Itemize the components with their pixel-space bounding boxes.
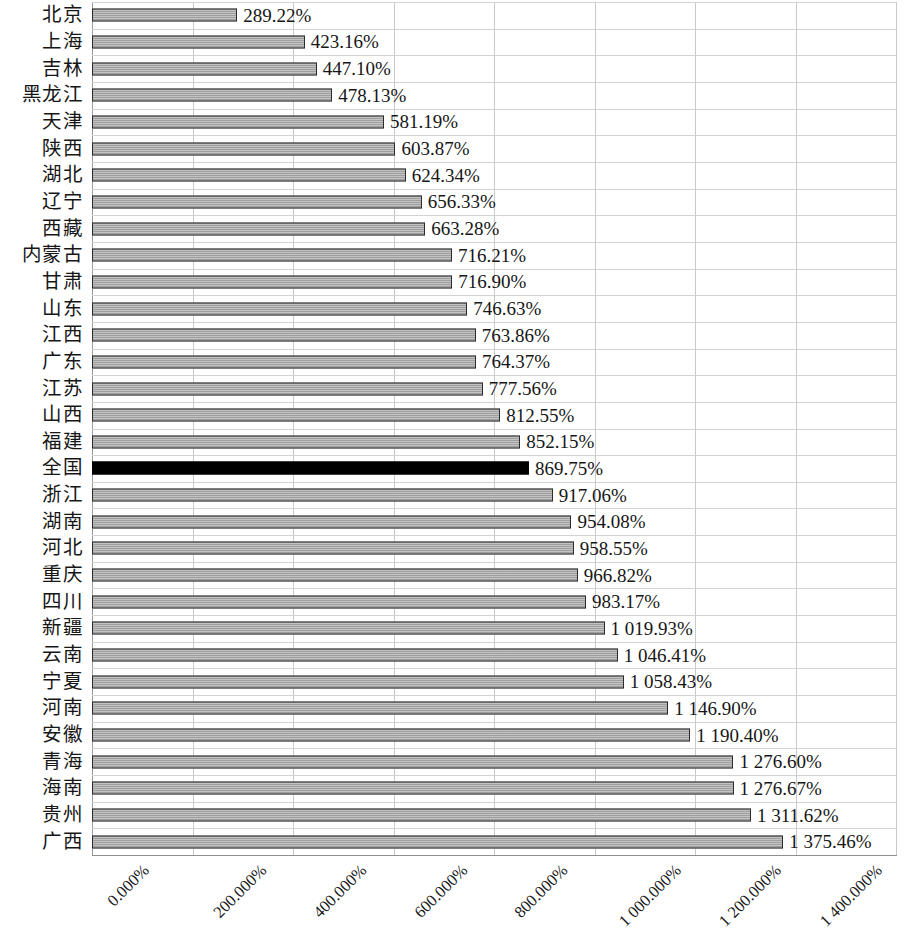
category-label-内蒙古: 内蒙古 xyxy=(22,245,84,265)
bar-陕西: 603.87% xyxy=(92,142,395,155)
category-label-河南: 河南 xyxy=(42,699,83,719)
value-label-湖北: 624.34% xyxy=(412,166,480,185)
bar-row: 河北958.55% xyxy=(92,535,896,562)
bar-row: 青海1 276.60% xyxy=(92,748,896,775)
bar-row: 贵州1 311.62% xyxy=(92,802,896,829)
category-label-重庆: 重庆 xyxy=(42,565,83,585)
bar-湖南: 954.08% xyxy=(92,515,571,528)
value-label-山东: 746.63% xyxy=(473,299,541,318)
category-label-新疆: 新疆 xyxy=(42,619,83,639)
bar-row: 陕西603.87% xyxy=(92,135,896,162)
bar-row: 山西812.55% xyxy=(92,402,896,429)
category-label-辽宁: 辽宁 xyxy=(42,192,83,212)
gridline-x-1600 xyxy=(896,2,897,855)
bar-云南: 1 046.41% xyxy=(92,649,618,662)
bar-row: 内蒙古716.21% xyxy=(92,242,896,269)
x-tick-text: 400.000% xyxy=(311,862,370,921)
bar-甘肃: 716.90% xyxy=(92,275,452,288)
value-label-内蒙古: 716.21% xyxy=(458,246,526,265)
category-label-吉林: 吉林 xyxy=(42,59,83,79)
value-label-辽宁: 656.33% xyxy=(428,192,496,211)
bar-江西: 763.86% xyxy=(92,329,476,342)
bar-江苏: 777.56% xyxy=(92,382,483,395)
value-label-河北: 958.55% xyxy=(580,539,648,558)
bar-row: 广东764.37% xyxy=(92,349,896,376)
category-label-全国: 全国 xyxy=(42,459,83,479)
bar-河南: 1 146.90% xyxy=(92,702,668,715)
bar-安徽: 1 190.40% xyxy=(92,729,690,742)
bar-row: 江西763.86% xyxy=(92,322,896,349)
value-label-广东: 764.37% xyxy=(482,352,550,371)
bar-row: 江苏777.56% xyxy=(92,375,896,402)
bar-湖北: 624.34% xyxy=(92,169,406,182)
x-tick-1000: 1 000.000% xyxy=(616,862,684,930)
bar-row: 黑龙江478.13% xyxy=(92,82,896,109)
value-label-贵州: 1 311.62% xyxy=(757,806,839,825)
bar-辽宁: 656.33% xyxy=(92,195,422,208)
x-tick-text: 1 200.000% xyxy=(716,862,784,930)
category-label-青海: 青海 xyxy=(42,752,83,772)
category-label-广东: 广东 xyxy=(42,352,83,372)
value-label-江西: 763.86% xyxy=(482,326,550,345)
bar-row: 天津581.19% xyxy=(92,109,896,136)
bar-贵州: 1 311.62% xyxy=(92,809,751,822)
x-tick-text: 600.000% xyxy=(411,862,470,921)
bar-青海: 1 276.60% xyxy=(92,755,733,768)
value-label-福建: 852.15% xyxy=(526,432,594,451)
bar-西藏: 663.28% xyxy=(92,222,425,235)
bar-row: 宁夏1 058.43% xyxy=(92,668,896,695)
bar-全国: 869.75% xyxy=(92,462,529,475)
category-label-上海: 上海 xyxy=(42,32,83,52)
category-label-西藏: 西藏 xyxy=(42,219,83,239)
value-label-湖南: 954.08% xyxy=(577,512,645,531)
bar-row: 安徽1 190.40% xyxy=(92,722,896,749)
value-label-新疆: 1 019.93% xyxy=(611,619,693,638)
bar-福建: 852.15% xyxy=(92,435,520,448)
x-tick-text: 1 000.000% xyxy=(616,862,684,930)
category-label-海南: 海南 xyxy=(42,779,83,799)
category-label-江苏: 江苏 xyxy=(42,379,83,399)
category-label-江西: 江西 xyxy=(42,325,83,345)
value-label-上海: 423.16% xyxy=(311,32,379,51)
category-label-天津: 天津 xyxy=(42,112,83,132)
bar-row: 新疆1 019.93% xyxy=(92,615,896,642)
bar-row: 海南1 276.67% xyxy=(92,775,896,802)
category-label-云南: 云南 xyxy=(42,645,83,665)
bar-row: 西藏663.28% xyxy=(92,215,896,242)
value-label-黑龙江: 478.13% xyxy=(338,86,406,105)
value-label-宁夏: 1 058.43% xyxy=(630,672,712,691)
value-label-江苏: 777.56% xyxy=(489,379,557,398)
bar-row: 福建852.15% xyxy=(92,429,896,456)
bar-山西: 812.55% xyxy=(92,409,500,422)
bar-row: 湖南954.08% xyxy=(92,508,896,535)
value-label-四川: 983.17% xyxy=(592,592,660,611)
category-label-四川: 四川 xyxy=(42,592,83,612)
category-label-甘肃: 甘肃 xyxy=(42,272,83,292)
bar-row: 上海423.16% xyxy=(92,29,896,56)
bar-宁夏: 1 058.43% xyxy=(92,675,624,688)
value-label-青海: 1 276.60% xyxy=(739,752,821,771)
value-label-河南: 1 146.90% xyxy=(674,699,756,718)
bar-row: 山东746.63% xyxy=(92,295,896,322)
category-label-安徽: 安徽 xyxy=(42,725,83,745)
x-tick-text: 1 400.000% xyxy=(817,862,885,930)
value-label-山西: 812.55% xyxy=(506,406,574,425)
category-label-浙江: 浙江 xyxy=(42,485,83,505)
value-label-甘肃: 716.90% xyxy=(458,272,526,291)
bar-row: 吉林447.10% xyxy=(92,55,896,82)
value-label-北京: 289.22% xyxy=(243,6,311,25)
bar-row: 辽宁656.33% xyxy=(92,189,896,216)
value-label-全国: 869.75% xyxy=(535,459,603,478)
bar-河北: 958.55% xyxy=(92,542,574,555)
bar-海南: 1 276.67% xyxy=(92,782,734,795)
category-label-山西: 山西 xyxy=(42,405,83,425)
x-axis-line xyxy=(92,855,897,856)
value-label-海南: 1 276.67% xyxy=(740,779,822,798)
bar-row: 广西1 375.46% xyxy=(92,828,896,855)
bar-新疆: 1 019.93% xyxy=(92,622,605,635)
value-label-重庆: 966.82% xyxy=(584,566,652,585)
value-label-广西: 1 375.46% xyxy=(789,832,871,851)
bar-浙江: 917.06% xyxy=(92,489,553,502)
bar-上海: 423.16% xyxy=(92,35,305,48)
x-tick-200: 200.000% xyxy=(210,862,269,921)
